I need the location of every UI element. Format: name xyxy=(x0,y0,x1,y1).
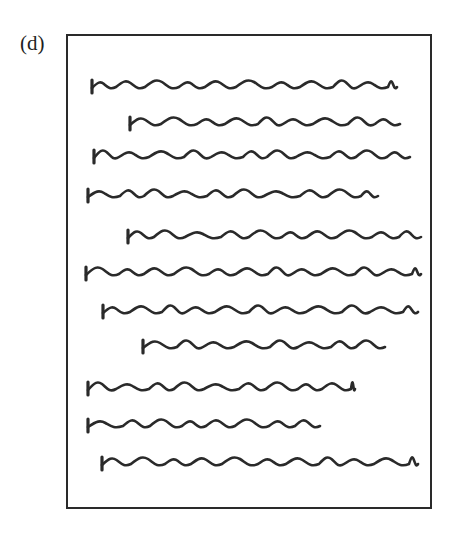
scribble-lines xyxy=(0,0,457,536)
scribble-line xyxy=(143,340,385,353)
scribble-line xyxy=(130,117,400,130)
scribble-line xyxy=(102,457,418,470)
scribble-line xyxy=(92,80,397,93)
scribble-line xyxy=(88,189,378,202)
scribble-line xyxy=(128,230,421,243)
scribble-line xyxy=(88,419,320,432)
scribble-line xyxy=(103,305,418,318)
scribble-line xyxy=(88,382,355,395)
scribble-line xyxy=(86,267,421,280)
scribble-line xyxy=(94,150,410,163)
